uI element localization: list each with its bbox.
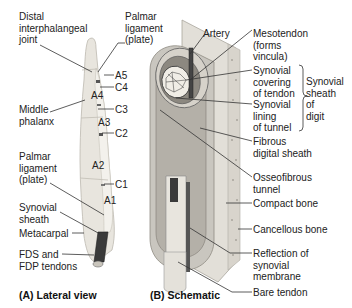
label-reflection-synovial-membrane: Reflection of synovial membrane <box>253 248 309 283</box>
label-palmar-ligament-top: Palmar ligament (plate) <box>125 11 163 46</box>
label-synovial-lining: Synovial lining of tunnel <box>253 99 291 134</box>
label-pulley-c4: C4 <box>115 82 128 94</box>
label-metacarpal: Metacarpal <box>19 228 68 240</box>
label-mesotendon: Mesotendon (forms vincula) <box>253 28 308 63</box>
label-compact-bone: Compact bone <box>253 198 318 210</box>
caption-schematic: (B) Schematic <box>150 289 220 301</box>
label-synovial-sheath-of-digit: Synovial sheath of digit <box>306 76 344 122</box>
anatomy-figure: Distal interphalangeal joint Palmar liga… <box>0 0 352 308</box>
label-bare-tendon: Bare tendon <box>253 287 308 299</box>
label-fds-fdp-tendons: FDS and FDP tendons <box>19 249 77 272</box>
label-artery: Artery <box>203 28 230 40</box>
label-cancellous-bone: Cancellous bone <box>253 224 328 236</box>
label-synovial-sheath: Synovial sheath <box>19 202 57 225</box>
label-middle-phalanx: Middle phalanx <box>19 104 54 127</box>
label-distal-interphalangeal-joint: Distal interphalangeal joint <box>19 11 87 46</box>
label-osseofibrous-tunnel: Osseofibrous tunnel <box>253 172 312 195</box>
label-synovial-covering: Synovial covering of tendon <box>253 65 295 100</box>
label-palmar-ligament-bottom: Palmar ligament (plate) <box>19 151 57 186</box>
label-pulley-a5: A5 <box>115 70 127 82</box>
label-pulley-a2: A2 <box>92 160 104 172</box>
label-pulley-a3: A3 <box>98 117 110 129</box>
label-pulley-c3: C3 <box>115 104 128 116</box>
label-pulley-a1: A1 <box>104 195 116 207</box>
schematic-drawing <box>149 20 240 293</box>
caption-lateral-view: (A) Lateral view <box>19 289 97 301</box>
label-pulley-c2: C2 <box>115 128 128 140</box>
label-fibrous-digital-sheath: Fibrous digital sheath <box>253 136 312 159</box>
label-pulley-a4: A4 <box>91 90 103 102</box>
label-pulley-c1: C1 <box>115 179 128 191</box>
